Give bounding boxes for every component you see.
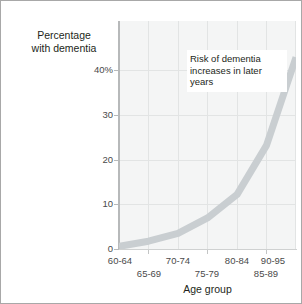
x-tick-label-90-95: 90-95 — [250, 255, 296, 266]
x-axis-title: Age group — [119, 283, 296, 295]
x-tick-label-70-74: 70-74 — [155, 255, 201, 266]
x-tick-label-85-89: 85-89 — [243, 268, 289, 279]
x-tick-label-65-69: 65-69 — [126, 268, 172, 279]
chart-annotation: Risk of dementia increases in later year… — [187, 50, 287, 92]
x-axis-tick-labels: 60-64 65-69 70-74 75-79 80-84 85-89 90-9… — [1, 1, 302, 304]
chart-figure: Percentage with dementia 40% 30 20 10 0 … — [0, 0, 302, 304]
x-tick-label-75-79: 75-79 — [184, 268, 230, 279]
x-tick-label-60-64: 60-64 — [97, 255, 143, 266]
